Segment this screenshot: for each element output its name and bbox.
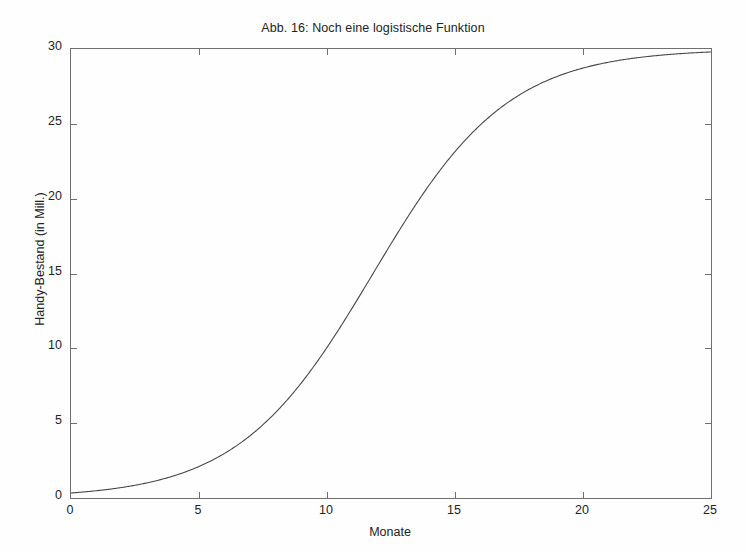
y-tick-mark	[705, 124, 711, 125]
chart-title: Abb. 16: Noch eine logistische Funktion	[0, 21, 746, 35]
x-tick-mark	[199, 492, 200, 498]
figure-canvas: Abb. 16: Noch eine logistische Funktion …	[0, 0, 746, 552]
x-axis-label: Monate	[70, 525, 710, 539]
plot-box	[70, 48, 712, 499]
x-tick-mark	[455, 492, 456, 498]
y-tick-mark	[71, 423, 77, 424]
y-tick-mark	[705, 274, 711, 275]
y-tick-mark	[71, 348, 77, 349]
y-tick-mark	[705, 423, 711, 424]
y-tick-mark	[71, 274, 77, 275]
x-tick-mark	[327, 49, 328, 55]
y-tick-mark	[71, 199, 77, 200]
y-tick-mark	[71, 124, 77, 125]
x-tick-mark	[455, 49, 456, 55]
x-tick-label: 25	[703, 503, 717, 517]
x-tick-label: 0	[67, 503, 74, 517]
x-tick-mark	[583, 49, 584, 55]
x-tick-label: 20	[575, 503, 589, 517]
x-tick-label: 10	[319, 503, 333, 517]
y-axis-label: Handy-Bestand (in Mill.)	[33, 159, 47, 359]
plot-area	[71, 49, 711, 498]
y-tick-mark	[705, 199, 711, 200]
y-tick-mark	[705, 348, 711, 349]
logistic-curve	[71, 49, 711, 498]
x-tick-mark	[327, 492, 328, 498]
curve-path	[71, 52, 711, 493]
x-tick-mark	[583, 492, 584, 498]
x-tick-label: 15	[447, 503, 461, 517]
x-tick-label: 5	[195, 503, 202, 517]
x-tick-mark	[199, 49, 200, 55]
